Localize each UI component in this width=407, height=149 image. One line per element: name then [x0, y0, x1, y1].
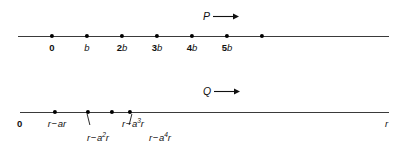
- number-line-figure: P 0 b 2b 3b 4b 5b Q 0 r: [0, 0, 407, 149]
- data-point: [190, 34, 194, 38]
- tick-label-p-3: 3b: [152, 43, 163, 53]
- leader-line: [87, 114, 91, 125]
- arrow-right-icon: [214, 87, 240, 96]
- axis-end-label-q: r: [385, 119, 388, 129]
- data-point: [50, 34, 54, 38]
- arrow-right-icon: [213, 12, 239, 21]
- tick-label-p-4: 4b: [187, 43, 198, 53]
- data-point: [85, 34, 89, 38]
- data-point: [53, 110, 57, 114]
- data-point: [120, 34, 124, 38]
- tick-label-p-0: 0: [49, 43, 54, 53]
- axis-start-label-q: 0: [17, 119, 22, 129]
- data-point: [110, 110, 114, 114]
- data-point: [260, 34, 264, 38]
- data-point: [225, 34, 229, 38]
- flow-label-p: P: [203, 11, 210, 22]
- tick-label-p-5: 5b: [222, 43, 233, 53]
- axis-line-p: [18, 36, 389, 37]
- tick-label-p-2: 2b: [117, 43, 128, 53]
- tick-label-q-3: r−a3r: [122, 119, 144, 129]
- tick-label-q-1: r−ar: [48, 119, 66, 129]
- tick-label-p-1: b: [84, 43, 89, 53]
- data-point: [155, 34, 159, 38]
- tick-label-q-2: r−a2r: [87, 133, 109, 143]
- flow-label-q: Q: [203, 86, 211, 97]
- flow-marker-q: Q: [203, 86, 240, 97]
- flow-marker-p: P: [203, 11, 239, 22]
- tick-label-q-4: r−a4r: [149, 133, 171, 143]
- axis-line-q: [20, 112, 389, 113]
